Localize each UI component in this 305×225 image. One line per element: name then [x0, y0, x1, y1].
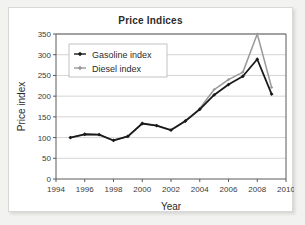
x-tick-label: 1996	[76, 185, 94, 194]
x-axis-label: Year	[161, 201, 182, 212]
y-axis-label: Price index	[16, 82, 27, 131]
legend-label: Gasoline index	[92, 50, 152, 60]
data-point-marker	[270, 86, 273, 89]
chart-legend: Gasoline indexDiesel index	[69, 44, 167, 77]
y-tick-label: 50	[42, 154, 51, 163]
x-tick-label: 1994	[47, 185, 65, 194]
legend-label: Diesel index	[92, 64, 142, 74]
x-tick-label: 1998	[105, 185, 123, 194]
price-indices-line-chart: 050100150200250300350 199419961998200020…	[9, 8, 294, 213]
y-tick-label: 300	[38, 51, 52, 60]
y-tick-label: 150	[38, 113, 52, 122]
y-axis-ticks: 050100150200250300350	[38, 30, 56, 184]
y-tick-label: 250	[38, 71, 52, 80]
x-tick-label: 2010	[277, 185, 294, 194]
data-point-marker	[83, 132, 87, 136]
x-axis-ticks: 199419961998200020022004200620082010	[47, 179, 294, 194]
y-tick-label: 100	[38, 134, 52, 143]
y-tick-label: 0	[47, 175, 52, 184]
y-tick-label: 350	[38, 30, 52, 39]
data-point-marker	[68, 136, 72, 140]
x-tick-label: 2006	[220, 185, 238, 194]
x-tick-label: 2000	[133, 185, 151, 194]
x-tick-label: 2004	[191, 185, 209, 194]
chart-card: Price Indices 050100150200250300350 1994…	[8, 7, 293, 212]
x-tick-label: 2008	[248, 185, 266, 194]
x-tick-label: 2002	[162, 185, 180, 194]
y-tick-label: 200	[38, 92, 52, 101]
